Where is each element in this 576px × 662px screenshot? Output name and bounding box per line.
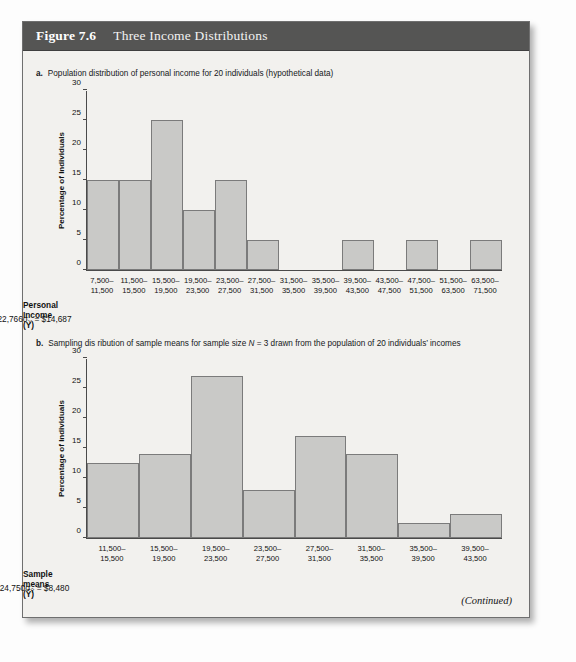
y-axis-tick-label: 10 bbox=[72, 197, 81, 206]
y-axis-tick bbox=[83, 537, 87, 538]
continued-note: (Continued) bbox=[461, 595, 512, 606]
y-axis-tick-label: 0 bbox=[77, 525, 81, 534]
x-axis-tick-label: 35,500–39,500 bbox=[397, 544, 449, 563]
figure-page: Figure 7.6 Three Income Distributions a.… bbox=[0, 0, 576, 662]
figure-body: a.Population distribution of personal in… bbox=[23, 51, 529, 617]
bar-slot bbox=[398, 359, 450, 538]
bar-slot bbox=[295, 359, 347, 538]
histogram-bar bbox=[247, 240, 279, 270]
y-axis-tick-label: 25 bbox=[72, 107, 81, 116]
bar-slot bbox=[151, 91, 183, 270]
chart-b-y-axis-label: Percentage of Individuals bbox=[57, 400, 66, 497]
y-axis-tick-label: 15 bbox=[72, 167, 81, 176]
histogram-bar bbox=[295, 436, 347, 538]
histogram-bar bbox=[346, 454, 398, 538]
bar-slot bbox=[119, 91, 151, 270]
panel-b-caption-text-2: = 3 drawn from the population of 20 indi… bbox=[254, 339, 460, 348]
bar-slot bbox=[215, 91, 247, 270]
bar-slot bbox=[243, 359, 295, 538]
panel-b-caption: b.Sampling dis ribution of sample means … bbox=[36, 339, 461, 348]
y-axis-tick bbox=[83, 269, 87, 270]
x-axis-tick-label: 15,500–19,500 bbox=[150, 276, 182, 295]
y-axis-tick bbox=[83, 387, 87, 388]
y-axis-tick-label: 20 bbox=[72, 137, 81, 146]
chart-b-x-tick-labels: 11,500–15,50015,500–19,50019,500–23,5002… bbox=[86, 544, 501, 563]
x-axis-tick-label: 11,500–15,500 bbox=[86, 544, 138, 563]
bar-slot bbox=[450, 359, 502, 538]
bar-slot bbox=[183, 91, 215, 270]
y-axis-tick-label: 5 bbox=[77, 227, 81, 236]
y-axis-tick-label: 30 bbox=[72, 77, 81, 86]
y-axis-tick bbox=[83, 507, 87, 508]
bar-slot bbox=[470, 91, 502, 270]
y-axis-tick bbox=[83, 447, 87, 448]
x-axis-tick-label: 35,500–39,500 bbox=[309, 276, 341, 295]
bar-slot bbox=[438, 91, 470, 270]
panel-a-label: a. bbox=[36, 69, 43, 78]
panel-a-mean: μY = $22,766 bbox=[0, 314, 23, 325]
panel-a-caption-text: Population distribution of personal inco… bbox=[48, 69, 333, 78]
panel-b-sd: σȲ = $8,480 bbox=[25, 583, 69, 594]
histogram-bar bbox=[470, 240, 502, 270]
histogram-bar bbox=[243, 490, 295, 538]
bar-slot bbox=[374, 91, 406, 270]
histogram-bar bbox=[139, 454, 191, 538]
y-axis-tick-label: 25 bbox=[72, 375, 81, 384]
panel-a-sd: σY = $14,687 bbox=[23, 314, 72, 325]
y-axis-tick bbox=[83, 417, 87, 418]
bar-slot bbox=[87, 91, 119, 270]
bar-slot bbox=[87, 359, 139, 538]
x-axis-tick-label: 15,500–19,500 bbox=[138, 544, 190, 563]
x-axis-tick-label: 47,500–51,500 bbox=[405, 276, 437, 295]
chart-b-plot-area: 051015202530 bbox=[86, 359, 502, 539]
panel-b-mean: μȲ = $24,750 bbox=[0, 583, 25, 594]
bar-slot bbox=[247, 91, 279, 270]
x-axis-tick-label: 39,500–43,500 bbox=[341, 276, 373, 295]
bar-slot bbox=[279, 91, 311, 270]
x-axis-tick-label: 63,500–71,500 bbox=[469, 276, 501, 295]
x-axis-tick-label: 27,500–31,500 bbox=[246, 276, 278, 295]
figure-header: Figure 7.6 Three Income Distributions bbox=[23, 22, 529, 51]
chart-a-bars bbox=[87, 91, 502, 270]
histogram-bar bbox=[406, 240, 438, 270]
y-axis-tick-label: 20 bbox=[72, 405, 81, 414]
y-axis-tick-label: 30 bbox=[72, 345, 81, 354]
histogram-bar bbox=[119, 180, 151, 270]
x-axis-tick-label: 51,500–63,500 bbox=[437, 276, 469, 295]
histogram-bar bbox=[151, 120, 183, 270]
x-axis-tick-label: 27,500–31,500 bbox=[294, 544, 346, 563]
y-axis-tick bbox=[83, 209, 87, 210]
bar-slot bbox=[139, 359, 191, 538]
x-axis-tick-label: 19,500–23,500 bbox=[182, 276, 214, 295]
y-axis-tick bbox=[83, 119, 87, 120]
histogram-bar bbox=[191, 376, 243, 538]
y-axis-tick bbox=[83, 239, 87, 240]
y-axis-tick bbox=[83, 357, 87, 358]
y-axis-tick-label: 5 bbox=[77, 495, 81, 504]
histogram-bar bbox=[450, 514, 502, 538]
x-axis-tick-label: 7,500–11,500 bbox=[86, 276, 118, 295]
x-axis-tick-label: 31,500–35,500 bbox=[278, 276, 310, 295]
histogram-bar bbox=[183, 210, 215, 270]
y-axis-tick bbox=[83, 149, 87, 150]
y-axis-tick-label: 15 bbox=[72, 435, 81, 444]
figure-number: Figure 7.6 bbox=[36, 28, 96, 44]
bar-slot bbox=[342, 91, 374, 270]
histogram-bar bbox=[398, 523, 450, 538]
figure-box: Figure 7.6 Three Income Distributions a.… bbox=[22, 21, 530, 618]
y-axis-tick bbox=[83, 89, 87, 90]
chart-b-bars bbox=[87, 359, 502, 538]
x-axis-tick-label: 11,500–15,500 bbox=[118, 276, 150, 295]
bar-slot bbox=[346, 359, 398, 538]
bar-slot bbox=[310, 91, 342, 270]
y-axis-tick bbox=[83, 179, 87, 180]
y-axis-tick-label: 10 bbox=[72, 465, 81, 474]
chart-a-x-tick-labels: 7,500–11,50011,500–15,50015,500–19,50019… bbox=[86, 276, 501, 295]
chart-a-y-axis-label: Percentage of Individuals bbox=[57, 132, 66, 229]
x-axis-tick-label: 39,500–43,500 bbox=[449, 544, 501, 563]
y-axis-tick bbox=[83, 477, 87, 478]
x-axis-tick-label: 23,500–27,500 bbox=[214, 276, 246, 295]
x-axis-tick-label: 43,500–47,500 bbox=[373, 276, 405, 295]
x-axis-tick-label: 19,500–23,500 bbox=[190, 544, 242, 563]
bar-slot bbox=[406, 91, 438, 270]
